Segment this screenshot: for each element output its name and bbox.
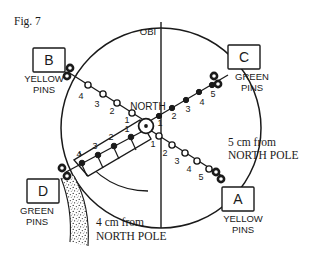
arm-C-marker-4 (196, 89, 201, 94)
arm-A-tick-3: 3 (174, 156, 179, 166)
arm-C-tick-3: 3 (185, 104, 190, 114)
arm-B-marker-4 (85, 82, 91, 88)
arm-D-tick-1: 1 (124, 124, 129, 134)
station-letter-D: D (38, 183, 48, 199)
pin-cluster-A (212, 168, 226, 184)
north-label: NORTH (130, 101, 165, 112)
arm-D-marker-2 (111, 143, 117, 149)
figure-7-diagram: B C D A YELLOW PINS GREEN PINS GREEN PIN… (0, 0, 321, 262)
arm-C-tick-2: 2 (171, 111, 176, 121)
station-letter-B: B (44, 52, 53, 68)
arm-D-marker-4 (79, 160, 85, 166)
note-5cm-line2: NORTH POLE (228, 149, 299, 161)
station-letter-A: A (233, 191, 243, 207)
figure-caption: Fig. 7 (14, 15, 41, 28)
arm-A-marker-4 (194, 158, 200, 164)
arm-A-marker-2 (169, 142, 175, 148)
arm-B-marker-2 (114, 100, 120, 106)
arm-C-marker-2 (169, 105, 174, 110)
station-pins-C-line2: PINS (241, 82, 263, 93)
station-pins-D-line1: GREEN (20, 205, 54, 216)
arm-A-tick-4: 4 (186, 164, 191, 174)
figure-canvas: B C D A YELLOW PINS GREEN PINS GREEN PIN… (0, 0, 321, 262)
obi-label: OBI (140, 26, 156, 37)
arm-D-marker-1 (128, 134, 134, 140)
station-pins-A-line2: PINS (232, 224, 254, 235)
note-4cm-line2: NORTH POLE (96, 230, 167, 242)
arm-B-marker-3 (100, 91, 106, 97)
station-pins-C-line1: GREEN (235, 71, 269, 82)
stipple-band (61, 176, 88, 246)
arm-C-marker-3 (183, 97, 188, 102)
arm-A-tick-5: 5 (198, 172, 203, 182)
arm-B-tick-3: 3 (94, 99, 99, 109)
arm-C-tick-5: 5 (210, 89, 215, 99)
arm-D-tick-2: 2 (108, 132, 113, 142)
station-pins-D-line2: PINS (26, 216, 48, 227)
station-letter-C: C (239, 49, 249, 65)
arm-A-tick-2: 2 (162, 148, 167, 158)
note-4cm-line1: 4 cm from (96, 216, 144, 228)
arm-D-tick-4: 4 (76, 149, 81, 159)
arm-A-tick-1: 1 (150, 139, 155, 149)
note-5cm-line1: 5 cm from (228, 136, 276, 148)
arm-A-marker-1 (156, 133, 162, 139)
station-pins-B-line2: PINS (33, 84, 55, 95)
arm-D-tick-3: 3 (92, 141, 97, 151)
arm-A-marker-3 (182, 150, 188, 156)
center-hub (139, 119, 154, 134)
arm-D-marker-3 (95, 152, 101, 158)
arm-A-marker-5 (206, 166, 212, 172)
arm-B-tick-4: 4 (78, 91, 83, 101)
arm-C-tick-4: 4 (199, 97, 204, 107)
arm-B-tick-2: 2 (109, 106, 114, 116)
station-pins-B-line1: YELLOW (24, 73, 64, 84)
station-pins-A-line1: YELLOW (223, 213, 263, 224)
arm-C-tick-1: 1 (157, 118, 162, 128)
